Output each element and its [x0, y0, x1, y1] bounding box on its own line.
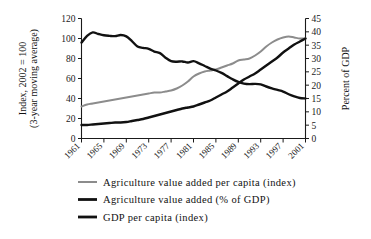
x-tick-label: 1981 [174, 141, 194, 161]
chart-legend: Agriculture value added per capita (inde… [78, 177, 296, 224]
data-series-group [82, 32, 306, 125]
left-tick-label: 20 [66, 114, 76, 124]
left-axis-title: Index, 2002 = 100(3-year moving average) [17, 29, 40, 128]
x-axis-ticks: 1961196519691973197719811985198919931997… [62, 139, 306, 161]
x-tick-label: 1965 [85, 140, 105, 160]
right-tick-label: 15 [312, 94, 322, 104]
chart-figure: Index, 2002 = 100(3-year moving average)… [0, 0, 371, 239]
chart-svg: Index, 2002 = 100(3-year moving average)… [0, 0, 371, 239]
series-line-1 [82, 37, 306, 107]
left-axis-title-line2: (3-year moving average) [28, 29, 40, 128]
legend-label: Agriculture value added (% of GDP) [103, 194, 270, 206]
right-tick-label: 25 [312, 67, 322, 77]
x-tick-label: 1961 [62, 141, 82, 161]
right-axis-title: Percent of GDP [340, 46, 351, 110]
left-tick-label: 40 [66, 94, 76, 104]
right-tick-label: 10 [312, 107, 322, 117]
left-axis-ticks: 020406080100120 [61, 14, 81, 144]
right-tick-label: 40 [312, 27, 322, 37]
left-tick-label: 80 [66, 54, 76, 64]
x-tick-label: 1977 [152, 140, 172, 160]
right-tick-label: 20 [312, 81, 322, 91]
legend-label: Agriculture value added per capita (inde… [103, 177, 296, 189]
x-tick-label: 1985 [197, 140, 217, 160]
x-tick-label: 1969 [107, 140, 127, 160]
left-axis-title-line1: Index, 2002 = 100 [17, 42, 28, 115]
series-line-3 [82, 39, 306, 126]
left-tick-label: 60 [66, 74, 76, 84]
right-tick-label: 35 [312, 41, 322, 51]
left-tick-label: 100 [61, 34, 76, 44]
right-axis-ticks: 051015202530354045 [306, 14, 322, 144]
right-tick-label: 0 [312, 134, 317, 144]
legend-label: GDP per capita (index) [103, 212, 208, 224]
left-tick-label: 120 [61, 14, 76, 24]
x-tick-label: 2001 [286, 141, 306, 161]
x-tick-label: 1997 [264, 140, 284, 160]
right-tick-label: 30 [312, 54, 322, 64]
right-axis-title: Percent of GDP [340, 46, 351, 110]
x-tick-label: 1973 [129, 140, 149, 160]
x-tick-label: 1989 [219, 140, 239, 160]
right-tick-label: 45 [312, 14, 322, 24]
x-tick-label: 1993 [241, 140, 261, 160]
right-tick-label: 5 [312, 121, 317, 131]
